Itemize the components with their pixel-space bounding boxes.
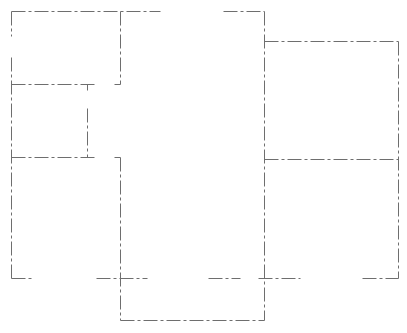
floor-plan-diagram xyxy=(0,0,407,333)
walls-group xyxy=(12,12,399,321)
